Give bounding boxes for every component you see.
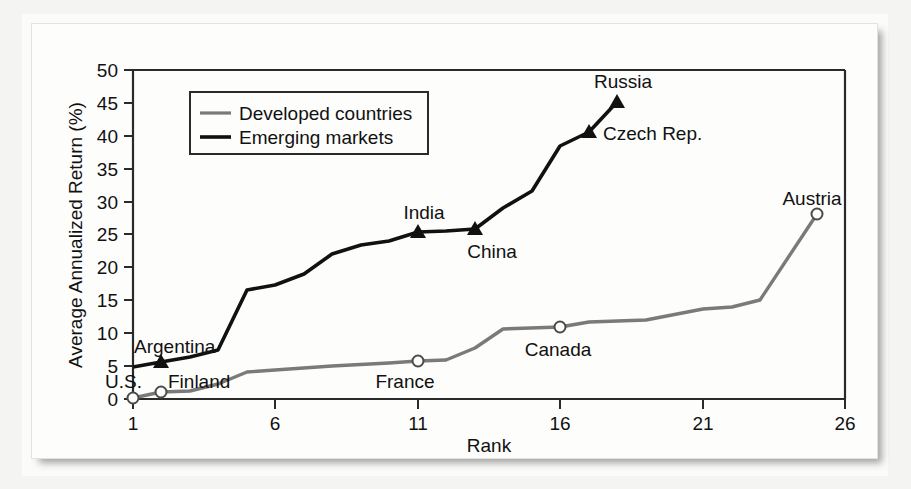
line-chart: 0 5 10 15 20 25 30 35 40 45 50 1 6 11 16… xyxy=(0,0,911,489)
label-austria: Austria xyxy=(782,188,842,209)
y-tick-label-20: 20 xyxy=(97,257,118,278)
marker-canada xyxy=(555,322,566,333)
y-ticks: 0 5 10 15 20 25 30 35 40 45 50 xyxy=(97,60,133,410)
marker-austria xyxy=(812,209,823,220)
y-tick-label-30: 30 xyxy=(97,192,118,213)
y-tick-label-15: 15 xyxy=(97,290,118,311)
y-tick-label-50: 50 xyxy=(97,60,118,81)
label-china: China xyxy=(467,241,517,262)
label-india: India xyxy=(403,202,445,223)
label-finland: Finland xyxy=(168,371,230,392)
legend-label-developed: Developed countries xyxy=(239,103,412,124)
legend-label-emerging: Emerging markets xyxy=(239,127,393,148)
label-russia: Russia xyxy=(594,71,653,92)
label-canada: Canada xyxy=(525,339,592,360)
marker-us xyxy=(128,393,139,404)
marker-france xyxy=(413,356,424,367)
x-tick-label-26: 26 xyxy=(834,413,855,434)
label-czech: Czech Rep. xyxy=(603,123,702,144)
marker-russia xyxy=(609,94,625,108)
x-tick-label-11: 11 xyxy=(408,413,428,434)
y-tick-label-35: 35 xyxy=(97,159,118,180)
series-markers-developed xyxy=(128,209,823,404)
legend: Developed countries Emerging markets xyxy=(190,92,428,154)
x-tick-label-1: 1 xyxy=(128,413,139,434)
y-axis-title: Average Annualized Return (%) xyxy=(65,102,86,368)
y-tick-label-0: 0 xyxy=(107,389,118,410)
label-france: France xyxy=(375,371,434,392)
y-tick-label-40: 40 xyxy=(97,126,118,147)
label-argentina: Argentina xyxy=(134,336,216,357)
y-tick-label-45: 45 xyxy=(97,93,118,114)
label-us: U.S. xyxy=(105,371,142,392)
x-tick-label-6: 6 xyxy=(270,413,281,434)
page-background: 0 5 10 15 20 25 30 35 40 45 50 1 6 11 16… xyxy=(0,0,911,489)
y-tick-label-25: 25 xyxy=(97,224,118,245)
y-tick-label-10: 10 xyxy=(97,323,118,344)
marker-finland xyxy=(156,387,167,398)
x-tick-label-21: 21 xyxy=(692,413,713,434)
x-tick-label-16: 16 xyxy=(549,413,570,434)
x-axis-title: Rank xyxy=(467,435,512,456)
x-ticks: 1 6 11 16 21 26 xyxy=(128,399,856,434)
